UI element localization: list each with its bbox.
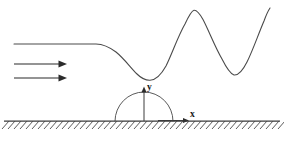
flow-arrow-upper-head	[59, 61, 68, 68]
y-axis-arrowhead	[141, 87, 146, 93]
y-axis-label: y	[147, 82, 152, 92]
x-axis-label: x	[190, 109, 195, 119]
flow-arrow-lower-head	[59, 75, 68, 82]
flow-diagram-svg: y x	[0, 0, 284, 146]
ground-hatching	[2, 121, 284, 129]
free-surface-curve	[14, 8, 270, 80]
figure-root: y x	[0, 0, 284, 146]
